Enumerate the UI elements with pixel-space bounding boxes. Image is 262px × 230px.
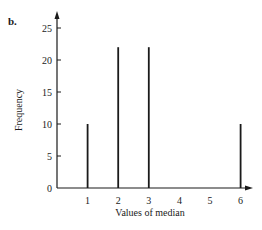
- x-tick-label: 5: [208, 195, 213, 206]
- y-tick-label: 20: [42, 55, 52, 66]
- x-axis-arrow-icon: [245, 186, 253, 191]
- y-axis-label: Frequency: [13, 89, 24, 131]
- frequency-spike-chart: b. 0510152025123456 Values of median Fre…: [0, 0, 262, 230]
- y-tick-label: 5: [47, 151, 52, 162]
- x-tick-label: 3: [146, 195, 151, 206]
- axes: 0510152025123456: [42, 11, 253, 206]
- x-tick-label: 2: [116, 195, 121, 206]
- y-tick-label: 25: [42, 23, 52, 34]
- panel-label: b.: [8, 15, 17, 27]
- x-tick-label: 1: [85, 195, 90, 206]
- x-tick-label: 6: [238, 195, 243, 206]
- y-tick-label: 10: [42, 119, 52, 130]
- bars: [88, 47, 241, 188]
- y-tick-label: 15: [42, 87, 52, 98]
- x-tick-label: 4: [177, 195, 182, 206]
- y-tick-label: 0: [47, 183, 52, 194]
- x-axis-label: Values of median: [115, 207, 184, 218]
- y-axis-arrow-icon: [55, 11, 60, 19]
